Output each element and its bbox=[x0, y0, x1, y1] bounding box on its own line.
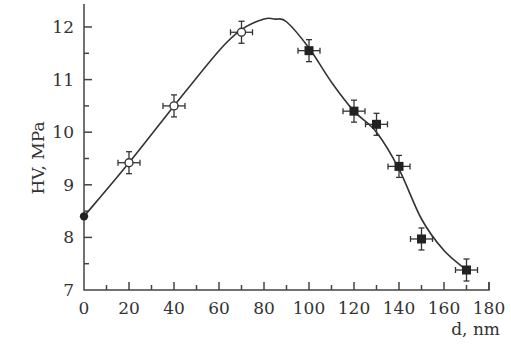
data-point-filled-square bbox=[366, 113, 388, 135]
y-tick-label: 11 bbox=[52, 70, 74, 90]
data-point-filled-circle bbox=[80, 212, 88, 220]
fit-curve bbox=[84, 18, 467, 270]
x-axis-tick-labels: 020406080100120140160180 bbox=[79, 298, 506, 318]
x-axis-title: d, nm bbox=[451, 319, 500, 339]
x-tick-label: 60 bbox=[208, 298, 230, 318]
hardness-vs-grain-size-chart: 789101112 020406080100120140160180 d, nm… bbox=[0, 0, 511, 358]
data-point-open-circle bbox=[163, 95, 185, 117]
y-tick-label: 7 bbox=[63, 280, 74, 300]
y-tick-label: 12 bbox=[52, 17, 74, 37]
data-point-filled-square bbox=[456, 259, 478, 281]
x-tick-label: 180 bbox=[473, 298, 505, 318]
x-tick-label: 20 bbox=[118, 298, 140, 318]
y-axis-tick-labels: 789101112 bbox=[52, 17, 74, 300]
y-tick-label: 8 bbox=[63, 227, 74, 247]
y-axis-title: HV, MPa bbox=[28, 121, 48, 194]
data-points bbox=[80, 21, 478, 281]
x-tick-label: 120 bbox=[338, 298, 370, 318]
axis-lines bbox=[84, 4, 489, 290]
data-point-open-circle bbox=[118, 152, 140, 174]
x-tick-label: 140 bbox=[383, 298, 415, 318]
data-point-filled-square bbox=[388, 155, 410, 177]
x-tick-label: 0 bbox=[79, 298, 90, 318]
x-tick-label: 160 bbox=[428, 298, 460, 318]
x-tick-label: 100 bbox=[293, 298, 325, 318]
axes bbox=[84, 4, 489, 290]
x-tick-label: 40 bbox=[163, 298, 185, 318]
y-tick-label: 9 bbox=[63, 175, 74, 195]
x-tick-label: 80 bbox=[253, 298, 275, 318]
y-tick-label: 10 bbox=[52, 122, 74, 142]
